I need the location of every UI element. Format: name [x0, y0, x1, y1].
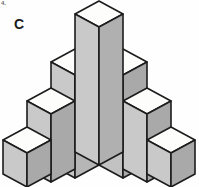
isometric-block-figure [0, 0, 199, 187]
column-far-right [147, 127, 195, 187]
column-center [75, 1, 123, 165]
column-far-left [3, 127, 51, 187]
center-right-face [99, 14, 123, 165]
figure-label: C [14, 17, 24, 31]
center-left-face [75, 14, 99, 165]
mid-left-right-face [51, 101, 75, 182]
figure-canvas: 4. C [0, 0, 199, 187]
mid-right-left-face [123, 101, 147, 182]
corner-mark: 4. [1, 0, 6, 6]
